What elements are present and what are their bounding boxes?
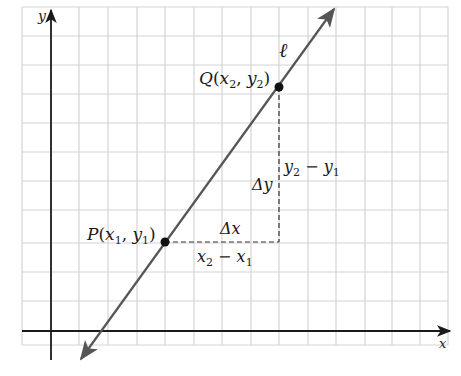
delta-x-label: Δx [219,219,241,238]
point-q [275,83,284,92]
line-l [81,9,334,359]
y-axis-label: y [37,8,47,24]
point-q-label: Q(x2, y2) [199,68,270,91]
line-label: ℓ [279,38,288,62]
point-p [161,238,170,247]
x-axis-label: x [439,336,447,351]
delta-y-label: Δy [251,175,274,194]
coordinate-diagram: y x ℓ P(x1, y1) Q(x2, y2) Δx x2 − x1 Δy … [0,0,461,376]
grid [22,7,448,345]
delta-y-expression: y2 − y1 [283,157,340,179]
delta-x-expression: x2 − x1 [197,247,253,269]
point-p-label: P(x1, y1) [86,224,156,247]
